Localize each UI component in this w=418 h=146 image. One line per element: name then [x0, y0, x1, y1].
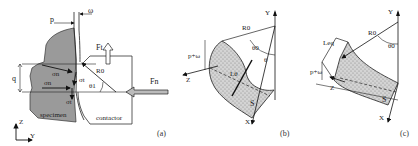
label-p: p: [50, 15, 54, 24]
panel-a: q p ω σn σt σn σt R0 θ1 Ft Fn specimen c…: [12, 6, 168, 140]
label-omega: ω: [88, 6, 93, 15]
label-specimen: specimen: [40, 111, 67, 119]
label-sigma-t-top: σt: [79, 76, 85, 84]
caption-b: (b): [280, 129, 290, 138]
axis-z-label-b: Z: [186, 76, 190, 84]
label-p-plus-omega-b: p+ω: [188, 52, 200, 60]
label-S-c: S: [382, 95, 386, 104]
panel-c: Y R0 θ0 Leq p+ω Z X S (c): [310, 8, 409, 138]
label-R0-c: R0: [368, 29, 377, 37]
label-contactor: contactor: [96, 114, 123, 122]
label-Fn: Fn: [150, 77, 158, 86]
label-R0-b: R0: [242, 24, 251, 32]
axis-z-label: Z: [19, 118, 23, 126]
label-theta1: θ1: [89, 82, 96, 90]
label-theta0-c: θ0: [388, 42, 395, 50]
label-p-plus-omega-c: p+ω: [310, 68, 322, 76]
label-q: q: [12, 74, 16, 83]
caption-c: (c): [400, 129, 409, 138]
axis-y-label-b: Y: [265, 9, 270, 17]
axis-y-label-c: Y: [388, 8, 393, 16]
label-L-eq: Leq: [323, 39, 334, 47]
label-Ft: Ft: [96, 43, 103, 52]
contact-mechanics-figure: q p ω σn σt σn σt R0 θ1 Ft Fn specimen c…: [0, 0, 418, 146]
axis-y-label: Y: [30, 132, 35, 140]
label-S-b: S: [250, 99, 254, 108]
force-fn-arrow: [126, 87, 168, 97]
panel-b: Y R0 X θ0 θ p+ω Z Lθ S (b): [183, 9, 290, 138]
label-sigma-n-bottom: σn: [44, 79, 52, 87]
label-R0: R0: [96, 67, 105, 75]
axis-x-label-c: X: [379, 114, 384, 122]
axis-z-label-c: Z: [330, 84, 334, 92]
contact-area-s-c: [334, 42, 398, 105]
label-theta0-b: θ0: [252, 44, 259, 52]
label-sigma-t-bottom: σt: [66, 98, 72, 106]
label-sigma-n-top: σn: [52, 70, 60, 78]
axis-x-label-b: X: [245, 118, 250, 126]
label-L-theta: Lθ: [230, 70, 238, 78]
caption-a: (a): [157, 129, 166, 138]
